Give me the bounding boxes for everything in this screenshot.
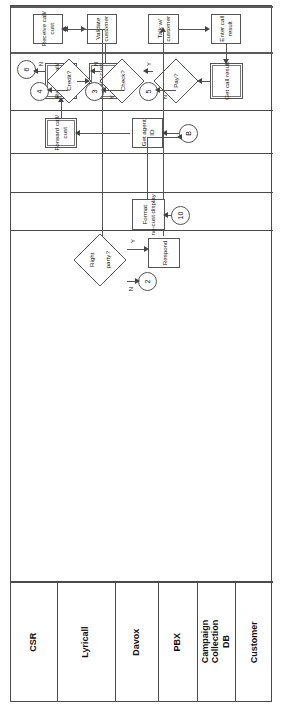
lane-divider-pbx-ccdb [11, 192, 273, 193]
flowchart-page: Enter callresult Talk w/customer Validat… [0, 0, 282, 712]
edge-label-rightparty-y: Y [131, 238, 135, 244]
edge-arrow-getresult [223, 59, 229, 64]
edge-format-to-connB-h [147, 137, 179, 138]
lane-label-ccdb: CampaignCollectionDB [197, 583, 236, 701]
edge-display-to-csr-h [63, 29, 105, 30]
edge-validate-to-rightparty [102, 29, 103, 247]
edge-label-credit-n: N [39, 61, 43, 67]
lane-divider-davox-pbx [11, 153, 273, 154]
lane-label-csr: CSR [11, 583, 58, 701]
edge-display-to-csr-receive [105, 44, 106, 63]
node-decision-right-party[interactable]: Rightparty? [73, 233, 127, 287]
lane-label-customer: Customer [235, 583, 273, 701]
connector-10[interactable]: 10 [171, 206, 190, 225]
node-decision-check[interactable]: Check? [99, 58, 145, 104]
swimlane-frame: Enter callresult Talk w/customer Validat… [10, 5, 272, 702]
edge-label-pay-y: Y [147, 61, 151, 67]
lane-divider-top [11, 6, 273, 8]
lane-label-lyricall: Lyricall [57, 583, 116, 701]
node-decision-pay[interactable]: Pay? [153, 58, 199, 104]
edge-talk-to-enter-result [179, 29, 205, 30]
node-forward-call-cust[interactable]: Forward call/cust [45, 118, 77, 148]
edge-arrow-talk [160, 27, 166, 32]
edge-arrow-display [85, 78, 90, 84]
edge-arrow-forward [75, 130, 80, 136]
edge-arrow-getagent [162, 130, 167, 136]
edge-arrow-check [143, 68, 148, 74]
edge-arrow-lyricall-receive [58, 97, 64, 102]
edge-label-rightparty-n: N [129, 286, 133, 292]
edge-label-check-y: Y [110, 94, 114, 100]
edge-arrow-conn2 [135, 278, 140, 284]
edge-arrow-csr-receive [61, 26, 66, 32]
edge-arrow-conn5 [155, 87, 160, 93]
node-enter-call-result[interactable]: Enter callresult [211, 14, 241, 44]
edge-arrow-connB [177, 134, 182, 140]
edge-format-to-connB [147, 137, 148, 199]
lane-divider-lyricall-davox [11, 110, 273, 111]
edge-arrow-pay [197, 78, 202, 84]
edge-label-check-n: N [94, 61, 98, 67]
lane-label-davox: Davox [115, 583, 159, 701]
edge-getagent-to-forward [77, 133, 130, 134]
lane-divider-csr-lyricall [11, 52, 273, 54]
node-respond[interactable]: Respond [148, 238, 180, 268]
edge-arrow-conn4 [47, 87, 52, 93]
node-format-no-cust-display[interactable]: Formatno-cust display [132, 199, 165, 230]
lane-label-band: CSR Lyricall Davox PBX CampaignCollectio… [11, 581, 273, 701]
connector-2[interactable]: 2 [138, 272, 157, 291]
edge-arrow-enter-result [205, 26, 210, 32]
edge-arrow-respond [144, 246, 149, 252]
edge-arrow-credit [90, 68, 95, 74]
edge-lyricall-receive-to-display [77, 81, 85, 82]
edge-arrow-conn6 [33, 68, 38, 74]
node-get-call-result[interactable]: Get call result [210, 63, 243, 99]
node-receive-call-cust-csr[interactable]: Receive call/cust [33, 14, 63, 44]
edge-arrow-format [163, 212, 168, 218]
lane-label-pbx: PBX [158, 583, 198, 701]
